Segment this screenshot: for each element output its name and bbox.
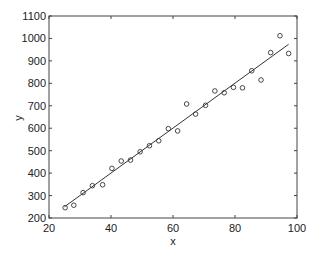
y-tick-label: 600 bbox=[28, 122, 46, 134]
x-tick-label: 80 bbox=[229, 222, 241, 234]
data-point bbox=[100, 182, 105, 187]
x-tick-label: 100 bbox=[288, 222, 306, 234]
data-point bbox=[72, 203, 77, 208]
data-point bbox=[166, 126, 171, 131]
data-point bbox=[231, 85, 236, 90]
y-tick-label: 500 bbox=[28, 145, 46, 157]
y-tick-label: 400 bbox=[28, 167, 46, 179]
y-tick-label: 1100 bbox=[22, 10, 46, 22]
x-tick-label: 60 bbox=[167, 222, 179, 234]
y-tick-label: 800 bbox=[28, 77, 46, 89]
y-tick-label: 700 bbox=[28, 100, 46, 112]
data-point bbox=[175, 129, 180, 134]
x-axis-label: x bbox=[170, 235, 176, 247]
data-point bbox=[286, 51, 291, 56]
data-point bbox=[268, 50, 273, 55]
data-point bbox=[193, 112, 198, 117]
data-point bbox=[119, 159, 124, 164]
data-point bbox=[240, 86, 245, 91]
y-axis-label: y bbox=[12, 115, 24, 121]
y-tick-label: 1000 bbox=[22, 32, 46, 44]
y-tick-label: 300 bbox=[28, 190, 46, 202]
scatter-chart: 2040608010020030040050060070080090010001… bbox=[0, 0, 316, 253]
y-tick-label: 900 bbox=[28, 55, 46, 67]
plot-frame bbox=[49, 16, 297, 218]
data-point bbox=[213, 89, 218, 94]
data-point bbox=[156, 138, 161, 143]
data-point bbox=[278, 33, 283, 38]
y-tick-label: 200 bbox=[28, 212, 46, 224]
axis-ticks: 2040608010020030040050060070080090010001… bbox=[22, 10, 307, 234]
data-point bbox=[259, 78, 264, 83]
fit-line bbox=[65, 44, 289, 206]
data-point bbox=[110, 166, 115, 171]
x-tick-label: 40 bbox=[105, 222, 117, 234]
data-point bbox=[184, 102, 189, 107]
